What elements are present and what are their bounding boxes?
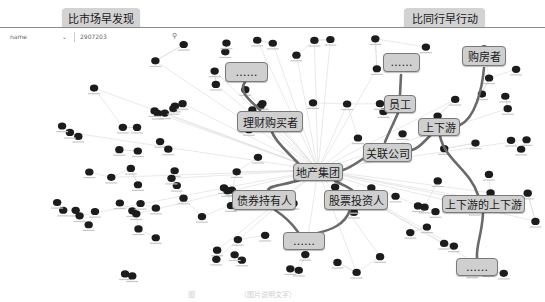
- graph-node[interactable]: [440, 240, 448, 247]
- graph-node[interactable]: [310, 37, 318, 44]
- graph-node[interactable]: [121, 270, 129, 277]
- graph-node[interactable]: [164, 146, 172, 153]
- graph-node[interactable]: [500, 270, 508, 277]
- graph-node[interactable]: [451, 96, 459, 103]
- graph-node[interactable]: [295, 267, 303, 274]
- graph-node[interactable]: [128, 272, 136, 279]
- graph-node[interactable]: [258, 100, 266, 107]
- graph-node[interactable]: [354, 134, 362, 141]
- graph-node[interactable]: [85, 168, 93, 175]
- graph-node[interactable]: [223, 187, 231, 194]
- graph-node[interactable]: [212, 256, 220, 263]
- graph-node[interactable]: [234, 236, 242, 243]
- search-input[interactable]: 2907203: [80, 33, 107, 40]
- graph-node[interactable]: [352, 269, 360, 276]
- graph-node[interactable]: [230, 251, 238, 258]
- graph-node[interactable]: [431, 208, 439, 215]
- figure-caption: （图片说明文字）: [240, 289, 296, 299]
- graph-node[interactable]: [406, 229, 414, 236]
- graph-node[interactable]: [116, 199, 124, 206]
- graph-node[interactable]: [522, 136, 530, 143]
- graph-node[interactable]: [150, 107, 158, 114]
- bond-holders-callout: 债券持有人: [232, 190, 296, 210]
- graph-node[interactable]: [133, 124, 141, 131]
- graph-node[interactable]: [170, 167, 178, 174]
- graph-node[interactable]: [253, 37, 261, 44]
- graph-node[interactable]: [75, 212, 83, 219]
- graph-node[interactable]: [74, 133, 82, 140]
- graph-node[interactable]: [376, 253, 384, 260]
- graph-node[interactable]: [507, 137, 515, 144]
- graph-node[interactable]: [107, 174, 115, 181]
- graph-node[interactable]: [471, 140, 479, 147]
- graph-node[interactable]: [254, 154, 262, 161]
- graph-node[interactable]: [333, 259, 341, 266]
- graph-node[interactable]: [119, 124, 127, 131]
- graph-node[interactable]: [134, 147, 142, 154]
- graph-node[interactable]: [376, 100, 384, 107]
- graph-node[interactable]: [53, 199, 61, 206]
- graph-node[interactable]: [173, 182, 181, 189]
- graph-node[interactable]: [66, 129, 74, 136]
- search-divider: [74, 32, 75, 42]
- graph-node[interactable]: [134, 181, 142, 188]
- graph-node[interactable]: [485, 74, 493, 81]
- graph-node[interactable]: [221, 48, 229, 55]
- graph-node[interactable]: [501, 93, 509, 100]
- graph-node[interactable]: [309, 99, 317, 106]
- graph-node[interactable]: [167, 175, 175, 182]
- graph-node[interactable]: [169, 105, 177, 112]
- graph-node[interactable]: [198, 213, 206, 220]
- wealth-buyers-callout: 理财购买者: [237, 111, 303, 132]
- graph-node[interactable]: [517, 146, 525, 153]
- graph-node[interactable]: [301, 251, 309, 258]
- graph-node[interactable]: [371, 35, 379, 42]
- graph-node[interactable]: [151, 57, 159, 64]
- graph-node[interactable]: [156, 138, 164, 145]
- graph-node[interactable]: [504, 105, 512, 112]
- graph-node[interactable]: [434, 177, 442, 184]
- field-select[interactable]: name: [10, 33, 27, 40]
- graph-node[interactable]: [485, 171, 493, 178]
- graph-node[interactable]: [115, 146, 123, 153]
- graph-node[interactable]: [210, 67, 218, 74]
- graph-node[interactable]: [179, 195, 187, 202]
- graph-node[interactable]: [531, 218, 539, 225]
- graph-node[interactable]: [292, 52, 300, 59]
- graph-node[interactable]: [343, 100, 351, 107]
- graph-node[interactable]: [213, 247, 221, 254]
- graph-node[interactable]: [269, 40, 277, 47]
- graph-node[interactable]: [90, 84, 98, 91]
- graph-node[interactable]: [261, 232, 269, 239]
- graph-node[interactable]: [91, 208, 99, 215]
- search-icon[interactable]: ⚲: [172, 32, 177, 40]
- graph-node[interactable]: [152, 205, 160, 212]
- graph-node[interactable]: [178, 100, 186, 107]
- graph-node[interactable]: [84, 221, 92, 228]
- graph-node[interactable]: [132, 210, 140, 217]
- supply-chain-callout: 上下游: [418, 118, 460, 136]
- graph-node[interactable]: [58, 122, 66, 129]
- search-bar: name ⌄ 2907203 ⚲: [10, 30, 190, 44]
- figure-label: 图: [188, 289, 195, 299]
- graph-node[interactable]: [450, 242, 458, 249]
- graph-node[interactable]: [222, 39, 230, 46]
- graph-node[interactable]: [398, 130, 406, 137]
- graph-node[interactable]: [373, 65, 381, 72]
- graph-node[interactable]: [524, 190, 532, 197]
- graph-canvas[interactable]: [0, 0, 545, 302]
- graph-node[interactable]: [152, 234, 160, 241]
- graph-node[interactable]: [286, 265, 294, 272]
- chevron-down-icon[interactable]: ⌄: [62, 33, 67, 40]
- graph-node[interactable]: [391, 193, 399, 200]
- graph-node[interactable]: [233, 168, 241, 175]
- graph-node[interactable]: [136, 200, 144, 207]
- graph-node[interactable]: [212, 81, 220, 88]
- graph-node[interactable]: [423, 223, 431, 230]
- graph-node[interactable]: [414, 202, 422, 209]
- graph-node[interactable]: [127, 165, 135, 172]
- graph-node[interactable]: [512, 66, 520, 73]
- graph-node[interactable]: [422, 43, 430, 50]
- graph-node[interactable]: [326, 36, 334, 43]
- graph-node[interactable]: [134, 225, 142, 232]
